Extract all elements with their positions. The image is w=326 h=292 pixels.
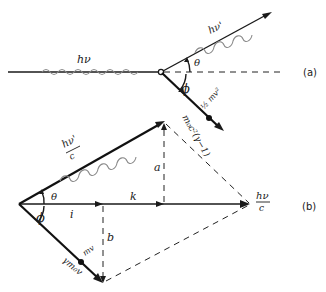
parallelogram-lower-dashed: [106, 205, 249, 281]
incident-momentum-label-denominator: c: [259, 203, 264, 213]
phi-label-b: ϕ: [36, 210, 45, 225]
component-b-label: b: [107, 231, 114, 244]
theta-label: θ: [194, 57, 200, 68]
component-a-label: a: [154, 161, 161, 174]
scattered-momentum-label-denominator: c: [67, 151, 76, 162]
scattered-photon-label: hν': [206, 19, 224, 35]
unit-k-label: k: [130, 190, 137, 203]
parallelogram-upper-dashed: [166, 124, 249, 203]
unit-i-arrowhead: [95, 201, 103, 207]
scattered-photon-arrowhead: [262, 12, 272, 19]
panel-b-label: (b): [302, 201, 316, 212]
kinetic-energy-classical-label: ½ mv²: [199, 86, 223, 111]
panel-a: hν hν' θ ϕ ½ mv² m₀c²(γ−1) (a): [8, 12, 317, 159]
electron-momentum-label-bottom: γm₀v: [61, 255, 85, 277]
incident-momentum-label-numerator: hν: [256, 190, 269, 201]
incident-photon-label: hν: [77, 53, 91, 66]
unit-i-label: i: [70, 208, 74, 221]
scattered-momentum-vector: [19, 124, 160, 204]
compton-scattering-diagram: hν hν' θ ϕ ½ mv² m₀c²(γ−1) (a) i: [0, 0, 326, 292]
electron-dot: [206, 115, 212, 121]
scattered-momentum-label-numerator: hν': [60, 133, 79, 150]
electron-momentum-label-top: mv: [81, 243, 96, 258]
theta-label-b: θ: [51, 191, 57, 202]
panel-b: i k hν c hν' c θ ϕ mv γm₀v a b: [19, 121, 316, 283]
phi-label: ϕ: [181, 81, 190, 96]
unit-k-arrowhead: [156, 201, 164, 207]
electron-momentum-vector: [19, 204, 98, 278]
panel-a-label: (a): [303, 67, 317, 78]
